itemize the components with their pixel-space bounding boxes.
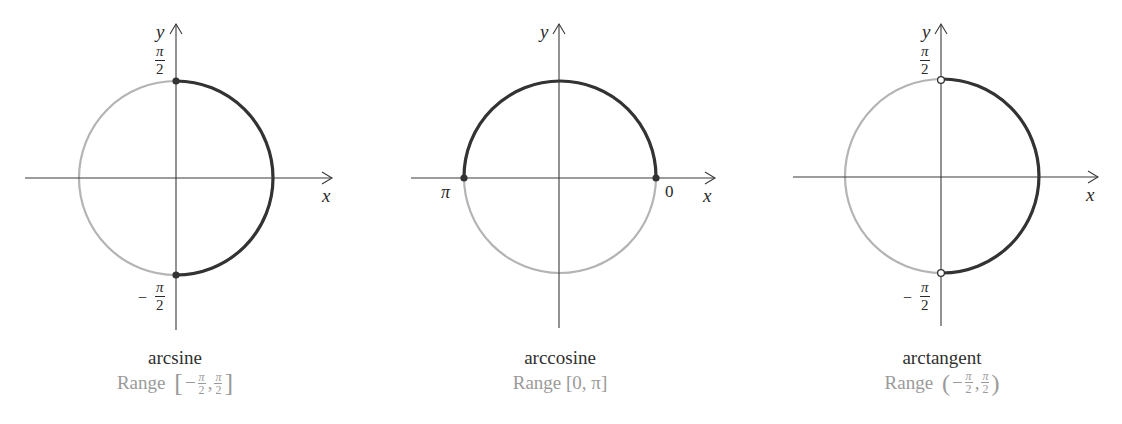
open-endpoint-bottom — [938, 270, 945, 277]
open-endpoint-top — [938, 77, 945, 84]
minus-sign: − — [903, 290, 912, 306]
range-label: Range ( − π2 , π2 ) — [822, 370, 1062, 395]
neg-pi-over-2-label: π2 — [920, 280, 930, 313]
x-axis-label: x — [1086, 185, 1094, 204]
pi-over-2-label: π2 — [920, 44, 930, 77]
arctangent-panel: y x π2 − π2 arctangent Range ( − π2 , π2… — [0, 0, 1122, 424]
range-arc — [942, 79, 1039, 273]
function-name: arctangent — [822, 347, 1062, 369]
y-axis-label: y — [922, 22, 930, 41]
